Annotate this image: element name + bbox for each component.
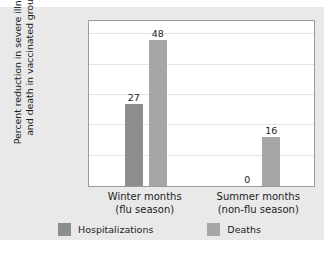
x-axis-group-label: Winter months(flu season) — [108, 191, 182, 216]
gridline — [89, 155, 314, 156]
bar-hospitalizations — [125, 104, 143, 186]
bar-deaths — [262, 137, 280, 186]
gridline — [89, 64, 314, 65]
x-axis-group-label: Summer months(non-flu season) — [217, 191, 300, 216]
x-axis-group-label-line: (flu season) — [108, 204, 182, 217]
bar-deaths — [149, 40, 167, 186]
legend-item-deaths[interactable]: Deaths — [207, 223, 261, 236]
x-axis-group-label-line: Summer months — [217, 191, 300, 204]
x-axis-group-label-line: (non-flu season) — [217, 204, 300, 217]
legend-swatch — [58, 223, 71, 236]
legend-swatch — [207, 223, 220, 236]
bar-value-label: 0 — [244, 174, 250, 185]
plot-area: 2748016 — [88, 20, 315, 187]
bar-value-label: 48 — [152, 28, 164, 39]
legend-label: Deaths — [227, 224, 261, 235]
gridline — [89, 33, 314, 34]
y-axis-title: Percent reduction in severe illness and … — [12, 0, 35, 154]
gridline — [89, 124, 314, 125]
bar-value-label: 16 — [265, 125, 277, 136]
x-axis-group-label-line: Winter months — [108, 191, 182, 204]
legend-item-hospitalizations[interactable]: Hospitalizations — [58, 223, 153, 236]
bar-value-label: 27 — [128, 92, 140, 103]
figure-panel: 2748016 Percent reduction in severe illn… — [0, 7, 324, 240]
chart-legend: HospitalizationsDeaths — [58, 223, 261, 236]
legend-label: Hospitalizations — [78, 224, 153, 235]
gridline — [89, 94, 314, 95]
